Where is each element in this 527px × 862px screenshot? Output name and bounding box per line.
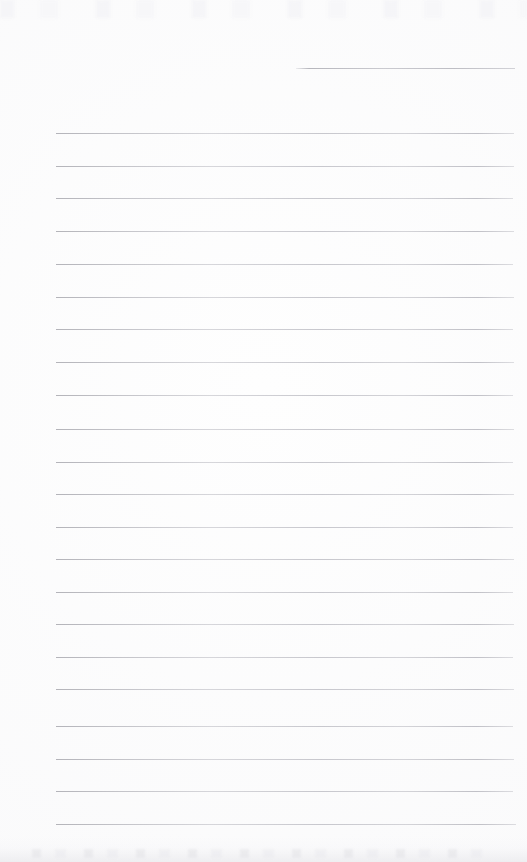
rule-line [56, 559, 514, 560]
rule-line [56, 527, 513, 528]
rule-line [56, 166, 514, 167]
rule-line [56, 329, 513, 330]
rule-line [56, 362, 514, 363]
rule-line [56, 231, 514, 232]
ruled-lines-layer [0, 0, 527, 862]
rule-line [56, 624, 514, 625]
scanned-page [0, 0, 527, 862]
rule-line [56, 726, 513, 727]
rule-line [56, 264, 513, 265]
rule-line [56, 657, 513, 658]
rule-line [56, 494, 514, 495]
rule-line [56, 791, 513, 792]
rule-line [56, 759, 514, 760]
rule-line [56, 198, 513, 199]
rule-line [56, 133, 514, 134]
rule-line [56, 395, 513, 396]
rule-line [56, 592, 513, 593]
rule-line [56, 429, 514, 430]
rule-line [56, 824, 516, 825]
rule-line [56, 297, 514, 298]
rule-line-partial [296, 68, 515, 69]
rule-line [56, 462, 513, 463]
rule-line [56, 689, 514, 690]
